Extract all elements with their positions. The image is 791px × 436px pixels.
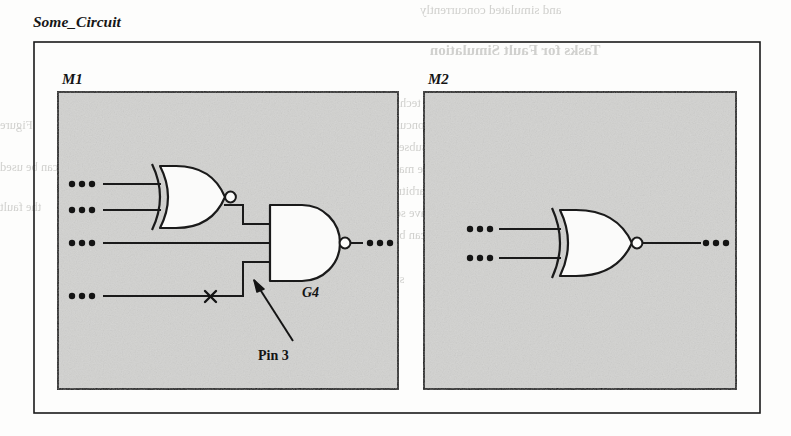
figure-title: Some_Circuit: [33, 13, 122, 30]
gate-label-g4: G4: [302, 285, 319, 300]
gate-xnor-1-inversion-bubble: [225, 192, 236, 203]
gate-g4-inversion-bubble: [340, 238, 351, 249]
m1-port-1-dots: [69, 181, 95, 187]
m1-port-4-dots: [69, 293, 95, 299]
gate-g4-body: [270, 205, 340, 281]
circuit-diagram: Some_Circuit M1: [0, 0, 791, 436]
module-m1[interactable]: G4 Pin 3: [58, 92, 398, 389]
m2-port-1-dots: [467, 226, 493, 232]
gate-xnor-2-inversion-bubble: [632, 238, 643, 249]
module-label-m1: M1: [61, 71, 83, 87]
m2-port-2-dots: [467, 255, 493, 261]
m2-output-port-dots: [703, 240, 729, 246]
m1-port-2-dots: [69, 207, 95, 213]
m1-output-port-dots: [367, 240, 393, 246]
m1-port-3-dots: [69, 240, 95, 246]
module-label-m2: M2: [427, 71, 449, 87]
figure-canvas: and simulated concurrently Tasks for Fau…: [0, 0, 791, 436]
pin3-label: Pin 3: [258, 348, 289, 363]
module-m2[interactable]: [424, 92, 736, 389]
